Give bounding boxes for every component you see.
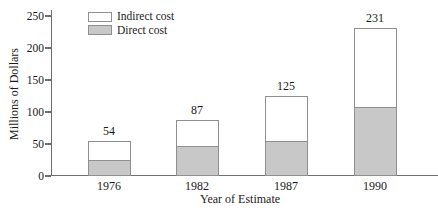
y-axis-tick [45, 47, 51, 48]
bar-1990-direct-segment [355, 107, 396, 175]
legend-label-indirect-cost: Indirect cost [112, 10, 174, 23]
bar-1987 [265, 96, 308, 176]
legend-item-direct-cost: Direct cost [88, 24, 174, 38]
legend-item-indirect-cost: Indirect cost [88, 10, 174, 24]
x-axis-tick-label: 1990 [345, 179, 405, 193]
bar-1987-direct-segment [266, 141, 307, 175]
direct-cost-swatch [88, 25, 112, 35]
bar-1990 [354, 28, 397, 176]
y-axis-tick-label: 0 [4, 169, 44, 183]
indirect-cost-swatch [88, 12, 112, 22]
x-axis-title: Year of Estimate [140, 192, 340, 206]
y-axis-tick [45, 79, 51, 80]
y-axis-tick-label: 50 [4, 137, 44, 151]
x-axis-tick-label: 1987 [256, 179, 316, 193]
y-axis-tick-label: 250 [4, 9, 44, 23]
x-axis-tick-label: 1976 [79, 179, 139, 193]
y-axis-tick-label: 100 [4, 105, 44, 119]
y-axis-tick [45, 175, 51, 176]
bar-1976 [88, 141, 131, 176]
bar-1982-direct-segment [177, 146, 218, 175]
bar-1976-direct-segment [89, 160, 130, 175]
bar-total-label: 87 [167, 103, 227, 117]
y-axis-tick-label: 150 [4, 73, 44, 87]
bar-1982 [176, 120, 219, 176]
bar-total-label: 54 [79, 124, 139, 138]
y-axis-tick-label: 200 [4, 41, 44, 55]
y-axis-tick [45, 143, 51, 144]
y-axis-tick [45, 15, 51, 16]
legend: Indirect cost Direct cost [88, 10, 174, 37]
legend-label-direct-cost: Direct cost [112, 24, 167, 37]
bar-total-label: 125 [256, 79, 316, 93]
x-axis-tick-label: 1982 [167, 179, 227, 193]
stacked-bar-chart-figure: Millions of Dollars 05010015020025054197… [0, 0, 438, 212]
y-axis-tick [45, 111, 51, 112]
bar-total-label: 231 [345, 11, 405, 25]
y-axis-line [51, 10, 52, 176]
